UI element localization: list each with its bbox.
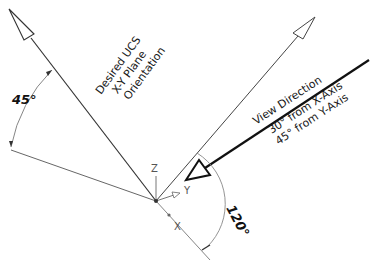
angle-label-45: 45° — [11, 92, 37, 107]
angle-arc-45 — [11, 70, 52, 147]
ucs-plane-label: Desired UCS X-Y Plane Orientation — [93, 29, 168, 112]
y-axis-arrowhead-icon — [172, 192, 180, 198]
view-direction-label: View Direction 30° from X-Axis 45° from … — [251, 65, 353, 151]
x-axis-marker — [167, 213, 170, 216]
angle-label-120: 120° — [223, 202, 252, 239]
angle-arc-45-tick-bottom-icon — [9, 141, 13, 147]
ucs-view-direction-diagram: Z Y X 45° 120° Desired UCS X-Y Plane Ori… — [0, 0, 375, 265]
z-axis-label: Z — [151, 163, 158, 174]
view-direction-arrowhead-icon — [186, 160, 210, 180]
angle-arc-120-tick-bottom — [202, 245, 210, 250]
reference-line-left — [11, 150, 156, 201]
x-axis-label: X — [174, 221, 181, 232]
origin-point — [154, 199, 158, 203]
y-axis-label: Y — [183, 185, 191, 196]
x-axis-line — [156, 201, 210, 260]
right-orientation-arrowhead-icon — [293, 17, 315, 39]
left-orientation-arrowhead-icon — [9, 9, 34, 40]
